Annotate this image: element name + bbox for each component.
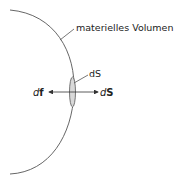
surface-element-leader	[74, 75, 88, 83]
force-label: df	[33, 87, 44, 98]
force-label-f: f	[39, 87, 44, 98]
volume-label-leader	[60, 29, 74, 40]
surface-element-label: dS	[89, 68, 101, 79]
volume-label: materielles Volumen	[76, 22, 173, 33]
normal-label: dS	[100, 87, 114, 98]
normal-label-S: S	[106, 87, 113, 98]
diagram-canvas: materielles Volumen dS df dS	[0, 0, 177, 187]
